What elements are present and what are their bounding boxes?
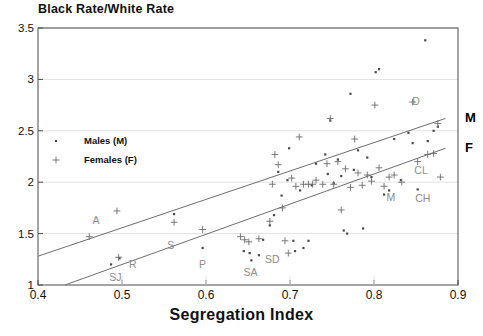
y-tick-label: 3.5	[2, 22, 34, 34]
plot-canvas	[0, 0, 483, 336]
data-point-male	[407, 132, 409, 134]
data-point-male	[250, 259, 252, 261]
legend-marker-plus	[53, 157, 60, 164]
trend-label-m: M	[465, 110, 476, 125]
city-label-a: A	[92, 214, 99, 226]
data-point-male	[258, 254, 260, 256]
data-point-male	[173, 213, 175, 215]
data-point-female	[114, 208, 121, 215]
data-point-male	[243, 250, 245, 252]
data-point-male	[327, 173, 329, 175]
data-point-female	[199, 226, 206, 233]
y-tick-label: 1.5	[2, 228, 34, 240]
data-point-female	[437, 174, 444, 181]
data-point-female	[359, 182, 366, 189]
y-tick-label: 2	[2, 176, 34, 188]
data-point-male	[294, 250, 296, 252]
data-point-male	[299, 189, 301, 191]
data-point-female	[355, 170, 362, 177]
legend-label-females: Females (F)	[84, 154, 137, 165]
data-point-female	[430, 150, 437, 157]
data-point-male	[393, 138, 395, 140]
data-point-male	[383, 193, 385, 195]
data-point-male	[412, 142, 414, 144]
data-point-male	[324, 153, 326, 155]
city-label-sa: SA	[244, 266, 258, 278]
data-point-female	[324, 160, 331, 167]
data-point-female	[376, 164, 383, 171]
data-point-male	[307, 240, 309, 242]
data-point-male	[202, 247, 204, 249]
data-point-female	[115, 254, 122, 261]
y-axis-tick-labels: 11.522.533.5	[0, 0, 34, 336]
data-point-female	[288, 175, 295, 182]
data-point-male	[340, 175, 342, 177]
data-point-male	[433, 130, 435, 132]
data-point-male	[366, 156, 368, 158]
x-axis-title: Segregation Index	[0, 306, 483, 324]
data-point-male	[375, 71, 377, 73]
data-point-male	[315, 163, 317, 165]
trend-line-f	[65, 148, 446, 285]
trend-label-f: F	[465, 140, 473, 155]
data-point-male	[417, 188, 419, 190]
data-point-female	[171, 219, 178, 226]
data-point-male	[378, 68, 380, 70]
data-point-female	[86, 233, 93, 240]
x-tick-label: 0.4	[30, 288, 47, 302]
data-point-female	[381, 183, 388, 190]
data-point-male	[286, 179, 288, 181]
y-tick-label: 2.5	[2, 125, 34, 137]
y-tick-label: 3	[2, 73, 34, 85]
city-label-d: D	[412, 95, 420, 107]
city-label-p: P	[199, 258, 206, 270]
city-label-m: M	[386, 191, 395, 203]
data-point-male	[277, 171, 279, 173]
data-point-female	[271, 151, 278, 158]
city-label-sj: SJ	[109, 271, 121, 283]
data-point-female	[368, 178, 375, 185]
data-point-female	[292, 183, 299, 190]
data-point-male	[281, 194, 283, 196]
data-point-female	[347, 184, 354, 191]
data-point-male	[353, 169, 355, 171]
data-point-female	[351, 136, 358, 143]
data-point-male	[249, 252, 251, 254]
city-label-cl: CL	[414, 164, 427, 176]
data-point-female	[296, 134, 303, 141]
legend-label-males: Males (M)	[84, 135, 127, 146]
data-point-male	[357, 149, 359, 151]
scatter-plot-figure: Black Rate/White Rate 11.522.533.5 0.40.…	[0, 0, 483, 336]
x-tick-label: 0.6	[198, 288, 215, 302]
data-point-female	[434, 120, 441, 127]
data-point-female	[424, 151, 431, 158]
x-tick-label: 0.7	[282, 288, 299, 302]
city-label-s: S	[167, 239, 174, 251]
x-tick-label: 0.9	[450, 288, 467, 302]
city-label-r: R	[129, 258, 137, 270]
data-point-male	[349, 93, 351, 95]
data-point-male	[292, 240, 294, 242]
data-point-female	[327, 115, 334, 122]
data-point-female	[285, 250, 292, 257]
data-point-female	[338, 207, 345, 214]
data-point-male	[343, 229, 345, 231]
data-point-male	[288, 147, 290, 149]
chart-title: Black Rate/White Rate	[38, 2, 174, 16]
x-tick-label: 0.8	[366, 288, 383, 302]
city-label-sd: SD	[265, 253, 280, 265]
data-point-male	[346, 233, 348, 235]
data-point-male	[427, 140, 429, 142]
data-point-female	[266, 218, 273, 225]
data-point-female	[398, 179, 405, 186]
data-point-female	[371, 102, 378, 109]
data-point-male	[262, 239, 264, 241]
data-point-male	[273, 214, 275, 216]
data-point-male	[424, 39, 426, 41]
data-point-male	[302, 247, 304, 249]
data-point-female	[275, 161, 282, 168]
city-label-ch: CH	[415, 192, 430, 204]
data-point-female	[334, 158, 341, 165]
legend-marker-dot	[55, 140, 57, 142]
data-point-male	[110, 263, 112, 265]
